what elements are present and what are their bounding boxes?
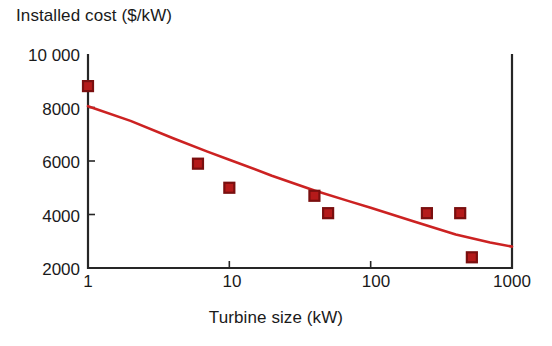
data-point-marker [224,183,234,193]
chart-figure: Installed cost ($/kW) Turbine size (kW) … [0,0,552,346]
plot-area [0,0,552,346]
trend-curve [88,106,512,246]
data-point-marker [193,159,203,169]
axis-frame-path [88,54,512,268]
data-point-marker [422,208,432,218]
data-points [83,81,477,262]
data-point-marker [467,252,477,262]
data-point-marker [455,208,465,218]
data-point-marker [83,81,93,91]
trend-curve-path [88,106,512,246]
data-point-marker [309,191,319,201]
axis-frame [88,54,512,268]
data-point-marker [323,208,333,218]
